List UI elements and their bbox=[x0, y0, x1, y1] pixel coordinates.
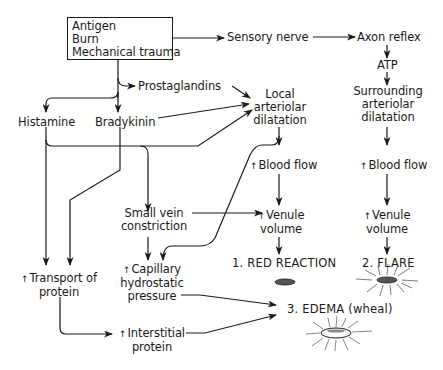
node-surrounding-dilatation: Surrounding arteriolar dilatation bbox=[352, 85, 424, 124]
increase-arrow-icon: ↑ bbox=[360, 161, 367, 171]
node-blood-flow-surrounding: ↑Blood flow bbox=[360, 159, 427, 173]
node-transport-of-protein: ↑Transport of protein bbox=[18, 272, 100, 299]
stimulus-box: Antigen Burn Mechanical trauma bbox=[67, 17, 173, 60]
triple-response-diagram: Antigen Burn Mechanical trauma Sensory n… bbox=[0, 0, 443, 370]
increase-arrow-icon: ↑ bbox=[258, 211, 265, 221]
node-blood-flow-local: ↑Blood flow bbox=[250, 159, 317, 173]
stimulus-mechanical-trauma: Mechanical trauma bbox=[72, 46, 168, 59]
node-local-dilatation: Local arteriolar dilatation bbox=[252, 88, 308, 127]
increase-arrow-icon: ↑ bbox=[250, 161, 257, 171]
outcome-flare: 2. FLARE bbox=[362, 257, 415, 270]
increase-arrow-icon: ↑ bbox=[21, 274, 28, 284]
outcome-red-reaction: 1. RED REACTION bbox=[232, 257, 336, 270]
red-reaction-lesion-icon bbox=[275, 279, 295, 285]
node-bradykinin: Bradykinin bbox=[95, 116, 155, 129]
node-prostaglandins: Prostaglandins bbox=[138, 80, 221, 93]
node-histamine: Histamine bbox=[18, 116, 75, 129]
node-capillary-hydrostatic-pressure: ↑Capillary hydrostatic pressure bbox=[118, 263, 186, 303]
edema-wheal-icon bbox=[306, 316, 372, 351]
node-venule-volume-local: ↑Venule volume bbox=[252, 209, 310, 236]
node-sensory-nerve: Sensory nerve bbox=[227, 31, 309, 44]
increase-arrow-icon: ↑ bbox=[119, 329, 126, 339]
node-interstitial-protein: ↑Interstitial protein bbox=[114, 327, 190, 354]
node-axon-reflex: Axon reflex bbox=[357, 31, 421, 44]
outcome-edema-wheal: 3. EDEMA (wheal) bbox=[287, 303, 393, 316]
node-small-vein-constriction: Small vein constriction bbox=[118, 207, 190, 233]
increase-arrow-icon: ↑ bbox=[123, 265, 130, 275]
node-atp: ATP bbox=[377, 59, 398, 72]
increase-arrow-icon: ↑ bbox=[364, 211, 371, 221]
node-venule-volume-surrounding: ↑Venule volume bbox=[358, 209, 416, 236]
